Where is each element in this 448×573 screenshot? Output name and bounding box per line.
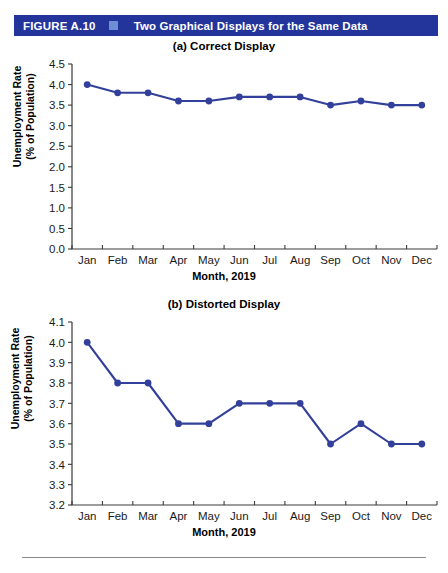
y-tick-label: 4.0 [49,79,65,91]
series-data-point [145,89,152,96]
x-tick-label: May [198,510,220,522]
y-tick-label: 3.2 [49,499,65,511]
series-data-point [205,420,212,427]
x-tick-label: Dec [412,510,433,522]
x-tick-label: Jul [262,254,277,266]
footer-divider [22,557,426,558]
y-tick-label: 1.5 [49,182,65,194]
y-tick-label: 3.5 [49,99,65,111]
y-tick-label: 3.8 [49,377,65,389]
chart-a-x-axis-label: Month, 2019 [0,270,448,282]
series-data-point [114,380,121,387]
series-data-point [266,400,273,407]
x-tick-label: Oct [352,510,371,522]
x-tick-label: Apr [170,254,188,266]
x-tick-label: Sep [320,254,340,266]
series-data-point [145,380,152,387]
chart-b-plot: 3.23.33.43.53.63.73.83.94.04.1JanFebMarA… [0,294,448,550]
series-data-point [327,102,334,109]
y-tick-label: 4.5 [49,58,65,70]
x-tick-label: Apr [170,510,188,522]
y-tick-label: 3.7 [49,398,65,410]
x-tick-label: Jan [78,510,97,522]
chart-b-x-axis-label: Month, 2019 [0,526,448,538]
x-tick-label: Aug [290,510,310,522]
series-data-point [205,98,212,105]
x-tick-label: Jul [262,510,277,522]
square-marker-icon [109,21,118,30]
series-data-point [418,441,425,448]
x-tick-label: Nov [381,254,402,266]
y-tick-label: 4.1 [49,316,65,328]
series-data-point [175,420,182,427]
y-tick-label: 3.6 [49,418,65,430]
series-data-point [297,400,304,407]
chart-panel-b: (b) Distorted Display Unemployment Rate … [0,294,448,550]
series-data-point [236,400,243,407]
series-data-point [327,441,334,448]
x-tick-label: Sep [320,510,340,522]
x-tick-label: Jun [230,510,249,522]
x-tick-label: Feb [108,510,128,522]
y-tick-label: 2.0 [49,161,65,173]
y-tick-label: 0.5 [49,223,65,235]
x-tick-label: Dec [412,254,433,266]
x-tick-label: Feb [108,254,128,266]
y-tick-label: 3.9 [49,357,65,369]
figure-header-bar: FIGURE A.10 Two Graphical Displays for t… [14,15,438,36]
series-data-point [388,102,395,109]
series-data-point [84,81,91,88]
y-tick-label: 3.3 [49,479,65,491]
y-tick-label: 2.5 [49,140,65,152]
chart-a-plot: 0.00.51.01.52.02.53.03.54.04.5JanFebMarA… [0,36,448,294]
x-tick-label: May [198,254,220,266]
y-tick-label: 4.0 [49,337,65,349]
x-tick-label: Jan [78,254,97,266]
series-data-point [84,339,91,346]
x-tick-label: Mar [138,510,158,522]
x-tick-label: Oct [352,254,371,266]
y-tick-label: 3.5 [49,438,65,450]
y-tick-label: 1.0 [49,202,65,214]
series-data-point [388,441,395,448]
series-data-point [358,98,365,105]
series-data-point [358,420,365,427]
x-tick-label: Mar [138,254,158,266]
y-tick-label: 0.0 [49,243,65,255]
series-line [87,85,422,106]
series-data-point [175,98,182,105]
chart-panel-a: (a) Correct Display Unemployment Rate (%… [0,36,448,294]
series-data-point [114,89,121,96]
series-line [87,342,422,444]
y-tick-label: 3.4 [49,459,66,471]
series-data-point [297,93,304,100]
figure-title: Two Graphical Displays for the Same Data [134,20,368,32]
x-tick-label: Jun [230,254,249,266]
series-data-point [236,93,243,100]
x-tick-label: Aug [290,254,310,266]
y-tick-label: 3.0 [49,120,65,132]
series-data-point [266,93,273,100]
x-tick-label: Nov [381,510,402,522]
series-data-point [418,102,425,109]
